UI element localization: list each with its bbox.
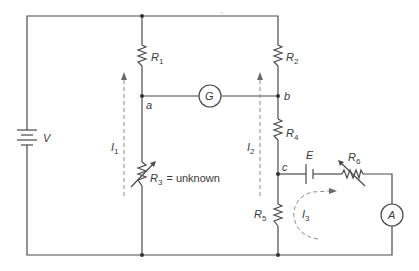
label-r2: R2 xyxy=(286,51,299,66)
current-label-i3: I3 xyxy=(302,208,310,223)
node-label-a: a xyxy=(146,99,152,111)
ammeter-label: A xyxy=(387,209,395,221)
resistor-r2-icon xyxy=(274,45,282,66)
current-arrow-i2-icon xyxy=(257,72,263,196)
variable-resistor-r6-icon xyxy=(338,160,365,186)
source-label-v: V xyxy=(43,132,52,144)
emf-cell-icon xyxy=(306,164,313,184)
current-label-i1: I1 xyxy=(111,141,119,156)
current-arrow-i3-icon xyxy=(294,188,337,239)
resistor-r1-icon xyxy=(138,45,146,66)
current-label-i2: I2 xyxy=(247,141,255,156)
node-b xyxy=(276,94,280,98)
label-r3: R3= unknown xyxy=(150,172,220,187)
battery-v-icon xyxy=(17,130,37,145)
node-label-b: b xyxy=(284,90,290,102)
emf-label: E xyxy=(306,149,314,161)
current-arrow-i1-icon xyxy=(121,72,127,196)
node-c xyxy=(276,172,280,176)
node-a xyxy=(140,94,144,98)
circuit-diagram: V R1 R2 R3= unknown R4 R5 R6 G A E xyxy=(0,0,419,271)
label-r5: R5 xyxy=(254,208,267,223)
artifact-dot xyxy=(221,12,223,14)
label-r6: R6 xyxy=(348,151,361,166)
label-r4: R4 xyxy=(286,127,299,142)
node-top-middle xyxy=(140,14,144,18)
node-label-c: c xyxy=(282,161,288,173)
resistor-r4-icon xyxy=(274,119,282,140)
node-bottom-right xyxy=(276,253,280,257)
wires xyxy=(27,16,392,255)
node-bottom-middle xyxy=(140,253,144,257)
label-r1: R1 xyxy=(151,51,164,66)
resistor-r5-icon xyxy=(274,204,282,226)
galvanometer-label: G xyxy=(205,90,214,102)
